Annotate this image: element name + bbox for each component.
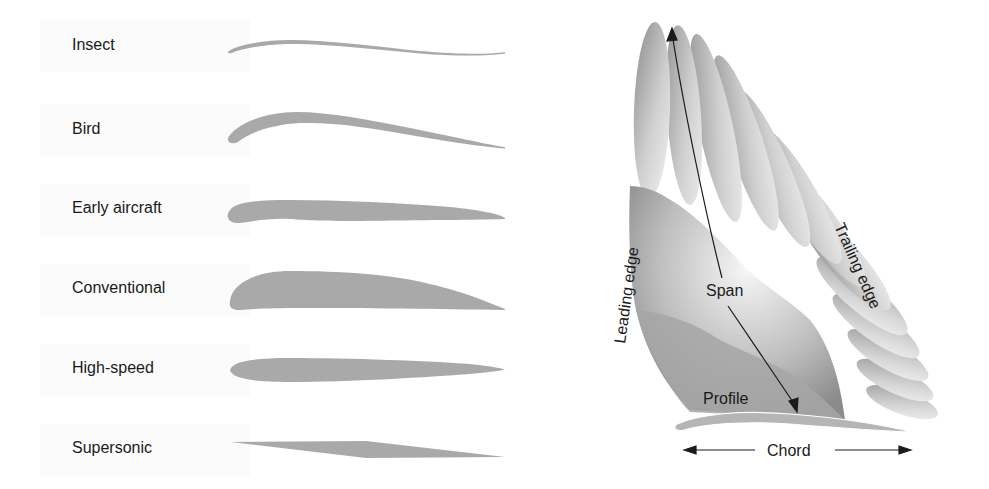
wing-profile-edge [675, 412, 912, 432]
chord-label: Chord [767, 442, 811, 459]
profile-label: Profile [703, 390, 748, 407]
span-label: Span [706, 282, 743, 299]
bird-wing-illustration: Span Profile Chord Leading edge Trailing… [0, 0, 989, 489]
